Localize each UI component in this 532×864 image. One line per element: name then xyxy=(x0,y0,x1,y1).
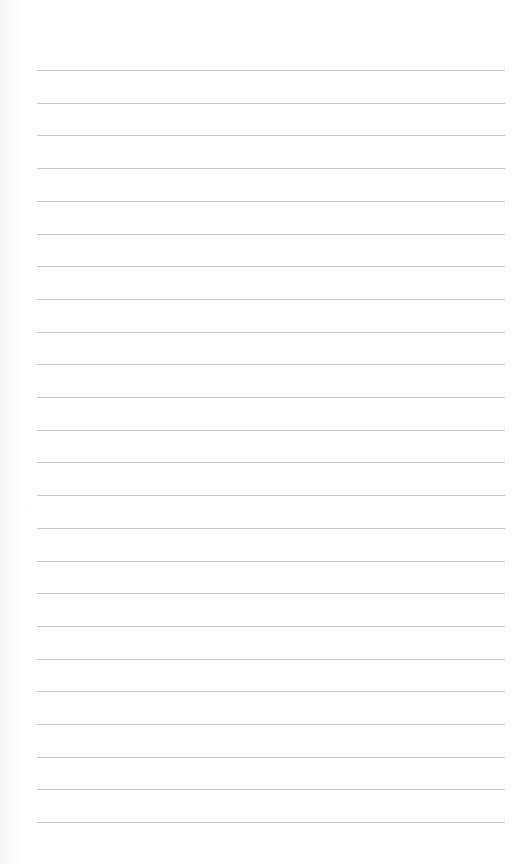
ruled-line xyxy=(37,691,505,692)
ruled-line xyxy=(37,70,505,71)
ruled-line xyxy=(37,561,505,562)
ruled-line xyxy=(37,234,505,235)
ruled-line xyxy=(37,495,505,496)
ruled-line xyxy=(37,332,505,333)
ruled-line xyxy=(37,626,505,627)
ruled-line xyxy=(37,168,505,169)
ruled-line xyxy=(37,103,505,104)
ruled-line xyxy=(37,430,505,431)
ruled-line xyxy=(37,593,505,594)
ruled-line xyxy=(37,757,505,758)
lined-paper-page xyxy=(0,0,532,864)
ruled-line xyxy=(37,299,505,300)
ruled-line xyxy=(37,659,505,660)
ruled-line xyxy=(37,462,505,463)
ruled-line xyxy=(37,135,505,136)
ruled-line xyxy=(37,364,505,365)
ruled-line xyxy=(37,789,505,790)
ruled-line xyxy=(37,397,505,398)
ruled-line xyxy=(37,724,505,725)
ruled-line xyxy=(37,201,505,202)
ruled-line xyxy=(37,822,505,823)
ruled-line xyxy=(37,266,505,267)
ruled-line xyxy=(37,528,505,529)
